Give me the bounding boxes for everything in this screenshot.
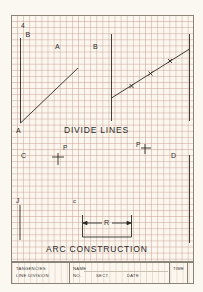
section-title-divide-lines: DIVIDE LINES	[64, 126, 129, 135]
label-radius: R	[104, 219, 109, 226]
title-block-student-info: NAME NO. SECT DATE	[70, 263, 170, 283]
label-c-small: c	[73, 198, 76, 204]
label-a-top: A	[55, 43, 60, 50]
date-label[interactable]: DATE	[127, 274, 139, 278]
point-p-left-crosshair	[52, 153, 64, 165]
section-title-arc-construction: ARC CONSTRUCTION	[46, 245, 148, 254]
label-b-left: B	[26, 31, 31, 38]
label-p-right: P	[136, 142, 141, 149]
label-c: C	[21, 152, 26, 159]
division-tick-marks	[130, 59, 173, 88]
label-a-bottom: A	[16, 127, 21, 134]
title-block-grade	[188, 263, 195, 283]
label-j: J	[16, 198, 19, 205]
point-p-right-crosshair	[141, 144, 151, 154]
label-b-mid: B	[93, 43, 98, 50]
sect-label[interactable]: SECT	[96, 274, 108, 278]
label-number-4: 4	[21, 23, 25, 30]
time-label[interactable]: TIME	[173, 267, 184, 271]
name-field-rule[interactable]	[84, 271, 168, 272]
title-block-time: TIME	[170, 263, 188, 283]
title-block-subject: TANGENCIES LINE DIVISION	[12, 263, 70, 283]
subject-line-division: LINE DIVISION	[16, 274, 49, 278]
subject-tangencies: TANGENCIES	[16, 267, 46, 271]
label-d: D	[171, 152, 176, 159]
line-a-diagonal	[21, 68, 79, 123]
label-p-left: P	[63, 145, 68, 152]
no-label[interactable]: NO.	[73, 274, 81, 278]
title-block: TANGENCIES LINE DIVISION NAME NO. SECT D…	[11, 262, 194, 284]
